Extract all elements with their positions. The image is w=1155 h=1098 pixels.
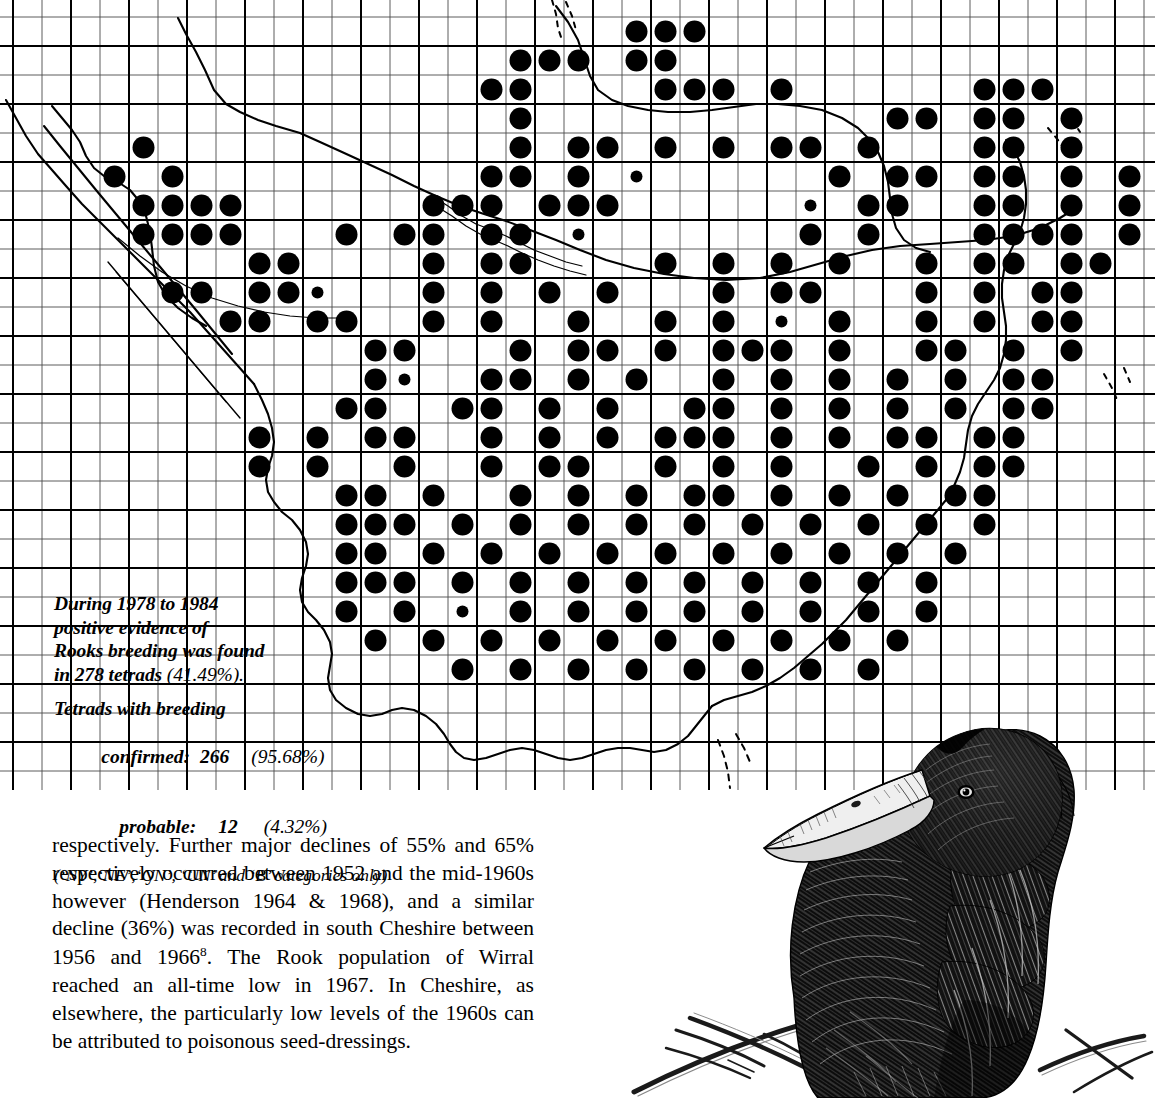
rook-illustration-canvas [604,700,1155,1098]
caption-tetrad-percent: (41.49%). [167,664,244,685]
stat-label-confirmed: confirmed: [101,746,190,767]
stat-row-confirmed: confirmed:266(95.68%) [54,721,494,792]
caption-tetrad-count: in 278 tetrads [54,664,167,685]
caption-line-4: in 278 tetrads (41.49%). [54,663,494,687]
caption-heading-2: Tetrads with breeding [54,697,494,721]
body-paragraph: respectively. Further major declines of … [52,832,534,1056]
caption-line-1: During 1978 to 1984 [54,592,494,616]
footnote-marker: 8 [200,944,207,959]
caption-line-3: Rooks breeding was found [54,639,494,663]
caption-line-2: positive evidence of [54,616,494,640]
article-body-text: respectively. Further major declines of … [52,832,534,1056]
rook-eye [958,785,975,799]
stat-percent-confirmed: (95.68%) [251,746,324,767]
rook-illustration [604,700,1155,1098]
stat-count-confirmed: 266 [200,746,229,767]
